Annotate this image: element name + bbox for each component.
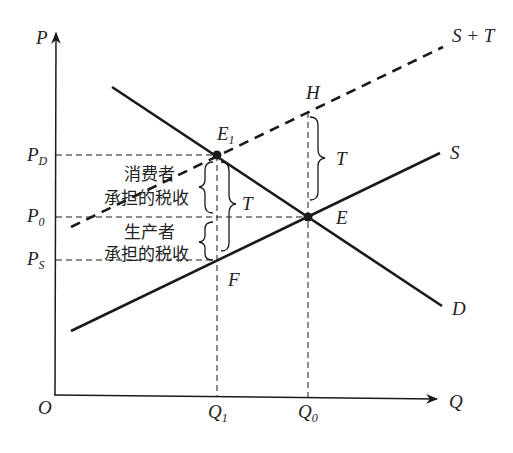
consumer-burden-line1: 消费者 bbox=[124, 164, 175, 184]
f-label: F bbox=[227, 269, 240, 290]
supply-label: S bbox=[450, 142, 460, 163]
consumer-burden-line2: 承担的税收 bbox=[104, 188, 189, 208]
tax-incidence-diagram: P Q O PD P0 PS Q1 Q0 D S S + T E1 E H F … bbox=[0, 0, 513, 453]
p0-label: P0 bbox=[26, 205, 45, 229]
q0-label: Q0 bbox=[298, 401, 318, 425]
producer-burden-line2: 承担的税收 bbox=[104, 244, 189, 264]
q1-label: Q1 bbox=[208, 401, 228, 425]
y-axis bbox=[55, 33, 56, 395]
tax-label-h-e: T bbox=[336, 148, 348, 169]
e1-label: E1 bbox=[216, 123, 235, 147]
x-axis-label: Q bbox=[449, 391, 463, 412]
pd-label: PD bbox=[26, 144, 48, 168]
x-axis bbox=[54, 395, 437, 399]
origin-label: O bbox=[38, 397, 52, 418]
point-e1 bbox=[213, 151, 222, 160]
ps-label: PS bbox=[26, 248, 45, 272]
brace-tax-h-e bbox=[310, 117, 325, 200]
brace-producer bbox=[199, 222, 213, 260]
h-label: H bbox=[305, 82, 321, 103]
brace-consumer bbox=[199, 162, 213, 213]
brace-total-tax bbox=[221, 162, 236, 251]
y-axis-label: P bbox=[35, 27, 48, 48]
tax-label-total: T bbox=[242, 193, 254, 214]
point-e bbox=[304, 213, 313, 222]
demand-label: D bbox=[451, 298, 466, 319]
producer-burden-line1: 生产者 bbox=[124, 222, 175, 242]
supply-plus-tax-label: S + T bbox=[452, 25, 496, 46]
e-label: E bbox=[335, 207, 348, 228]
